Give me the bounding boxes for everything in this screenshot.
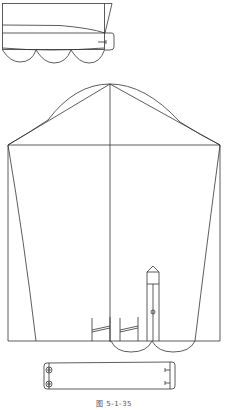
top-piece	[3, 4, 115, 64]
placket	[147, 266, 159, 341]
sleeve	[8, 84, 220, 352]
figure-caption: 图 5-1-35	[0, 398, 228, 408]
cuff	[44, 362, 175, 389]
sleeve-pattern-drawing	[0, 0, 228, 410]
